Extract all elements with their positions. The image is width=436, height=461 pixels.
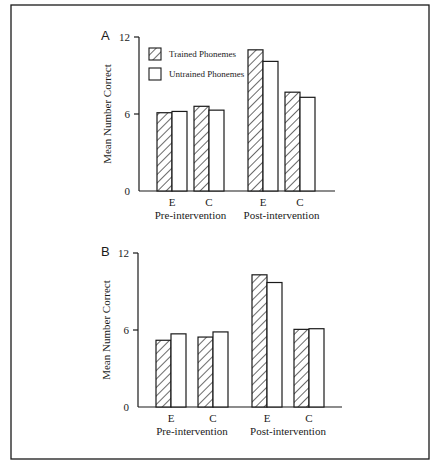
bar-untrained [300, 97, 315, 191]
category-label: C [305, 412, 312, 424]
bar-trained [194, 106, 209, 191]
category-label: C [296, 196, 303, 208]
bar-trained [248, 50, 263, 191]
category-label: E [264, 412, 271, 424]
y-tick-label: 6 [124, 324, 130, 336]
bar-trained [156, 340, 171, 407]
category-label: E [168, 412, 175, 424]
y-tick-label: 0 [124, 401, 130, 413]
y-tick-label: 12 [119, 31, 130, 43]
category-label: E [169, 196, 176, 208]
panel-letter: A [101, 28, 110, 43]
y-tick-label: 12 [118, 247, 129, 259]
bar-trained [198, 337, 213, 407]
y-tick-label: 6 [125, 108, 131, 120]
figure-canvas: A 0612 Mean Number Correct ECEC Pre-inte… [0, 0, 436, 461]
bar-untrained [267, 283, 282, 407]
y-axis-label: Mean Number Correct [100, 280, 112, 380]
category-label: C [209, 412, 216, 424]
legend-swatch-untrained [149, 68, 161, 80]
bar-untrained [309, 329, 324, 407]
bar-trained [294, 329, 309, 407]
bar-untrained [171, 334, 186, 407]
figure: A 0612 Mean Number Correct ECEC Pre-inte… [0, 0, 436, 461]
panel-letter: B [101, 244, 110, 259]
bar-untrained [213, 332, 228, 407]
group-label: Post-intervention [250, 425, 326, 437]
legend-label: Untrained Phonemes [169, 69, 245, 79]
y-tick-label: 0 [125, 185, 131, 197]
category-label: E [260, 196, 267, 208]
group-label: Post-intervention [244, 209, 320, 221]
group-label: Pre-intervention [156, 425, 228, 437]
bar-trained [252, 275, 267, 407]
legend-swatch-trained [149, 48, 161, 60]
category-label: C [205, 196, 212, 208]
bar-trained [285, 92, 300, 191]
group-label: Pre-intervention [155, 209, 227, 221]
legend-label: Trained Phonemes [169, 49, 236, 59]
bar-untrained [263, 61, 278, 191]
bar-trained [157, 113, 172, 191]
bar-untrained [209, 110, 224, 191]
y-axis-label: Mean Number Correct [101, 64, 113, 164]
bar-untrained [172, 111, 187, 191]
